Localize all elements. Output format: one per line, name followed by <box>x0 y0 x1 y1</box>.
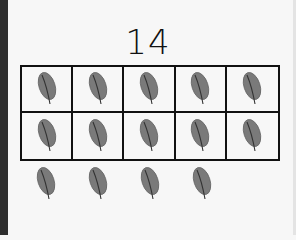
frame-cell <box>22 67 73 113</box>
count-number: 14 <box>0 22 296 62</box>
frame-cell <box>176 113 227 159</box>
leaf-icon <box>35 166 57 202</box>
leaf-icon <box>87 118 109 154</box>
frame-cell <box>176 67 227 113</box>
leaf-icon <box>241 118 263 154</box>
leaf-icon <box>189 118 211 154</box>
extra-leaves <box>20 166 280 216</box>
leaf-icon <box>241 71 263 107</box>
leaf-icon <box>138 118 160 154</box>
leaf-icon <box>87 71 109 107</box>
frame-cell <box>73 67 124 113</box>
leaf-icon <box>138 71 160 107</box>
leaf-icon <box>139 166 161 202</box>
leaf-icon <box>36 118 58 154</box>
frame-cell <box>227 67 278 113</box>
frame-cell <box>124 113 175 159</box>
frame-cell <box>227 113 278 159</box>
leaf-icon <box>191 166 213 202</box>
ten-frame <box>20 65 280 161</box>
frame-cell <box>73 113 124 159</box>
leaf-icon <box>36 71 58 107</box>
frame-cell <box>22 113 73 159</box>
frame-cell <box>124 67 175 113</box>
leaf-icon <box>189 71 211 107</box>
leaf-icon <box>87 166 109 202</box>
